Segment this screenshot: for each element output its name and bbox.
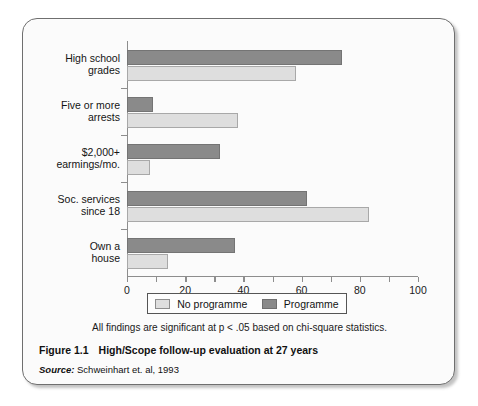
bar-no-programme — [127, 160, 150, 175]
figure-caption: Figure 1.1High/Scope follow-up evaluatio… — [39, 344, 318, 356]
x-axis-tick — [243, 277, 244, 282]
bar-programme — [127, 144, 220, 159]
bar-programme — [127, 238, 235, 253]
bar-programme — [127, 97, 153, 112]
category-label-line: $2,000+ — [0, 146, 120, 159]
category-label-line: High school — [0, 52, 120, 65]
x-axis-tick — [156, 277, 157, 282]
figure-panel: 020406080100 High schoolgradesFive or mo… — [22, 18, 455, 385]
category-label-line: earmings/mo. — [0, 158, 120, 171]
category-label: Own ahouse — [0, 240, 120, 265]
legend-item-no-programme: No programme — [155, 298, 247, 310]
figure-source: Source: Schweinhart et. al, 1993 — [39, 364, 179, 375]
x-axis-tick — [418, 277, 419, 282]
x-axis-tick — [389, 277, 390, 282]
legend-label-no-programme: No programme — [177, 298, 247, 310]
x-axis-tick-label: 0 — [107, 284, 147, 296]
category-label-line: arrests — [0, 111, 120, 124]
category-label-line: Five or more — [0, 99, 120, 112]
category-label: Soc. servicessince 18 — [0, 193, 120, 218]
legend-swatch-no-programme-icon — [155, 299, 170, 309]
chart-legend: No programme Programme — [147, 293, 347, 314]
bar-no-programme — [127, 207, 369, 222]
x-axis-tick-label: 100 — [398, 284, 438, 296]
bar-group — [127, 135, 426, 182]
legend-swatch-programme-icon — [262, 299, 277, 309]
x-axis-tick — [214, 277, 215, 282]
bar-group — [127, 88, 426, 135]
category-label-line: Own a — [0, 240, 120, 253]
source-text: Schweinhart et. al, 1993 — [77, 364, 179, 375]
figure-screenshot: 020406080100 High schoolgradesFive or mo… — [0, 0, 478, 406]
category-label: High schoolgrades — [0, 52, 120, 77]
legend-label-programme: Programme — [284, 298, 339, 310]
bar-no-programme — [127, 66, 296, 81]
x-axis-tick — [331, 277, 332, 282]
bar-programme — [127, 50, 342, 65]
x-axis-tick — [302, 277, 303, 282]
significance-note: All findings are significant at p < .05 … — [23, 322, 456, 333]
figure-number: Figure 1.1 — [39, 344, 89, 356]
bar-no-programme — [127, 254, 168, 269]
category-label-line: Soc. services — [0, 193, 120, 206]
bar-group — [127, 182, 426, 229]
legend-item-programme: Programme — [262, 298, 339, 310]
category-label: $2,000+earmings/mo. — [0, 146, 120, 171]
category-label-line: house — [0, 252, 120, 265]
bar-no-programme — [127, 113, 238, 128]
chart-plot-area: 020406080100 High schoolgradesFive or mo… — [127, 41, 426, 281]
x-axis-tick — [360, 277, 361, 282]
source-label: Source: — [39, 364, 74, 375]
figure-title: High/Scope follow-up evaluation at 27 ye… — [99, 344, 318, 356]
category-label-line: grades — [0, 64, 120, 77]
category-label: Five or morearrests — [0, 99, 120, 124]
bar-group — [127, 229, 426, 276]
x-axis-tick — [185, 277, 186, 282]
bar-programme — [127, 191, 307, 206]
x-axis-tick — [127, 277, 128, 282]
category-label-line: since 18 — [0, 205, 120, 218]
bar-group — [127, 41, 426, 88]
x-axis-tick — [273, 277, 274, 282]
